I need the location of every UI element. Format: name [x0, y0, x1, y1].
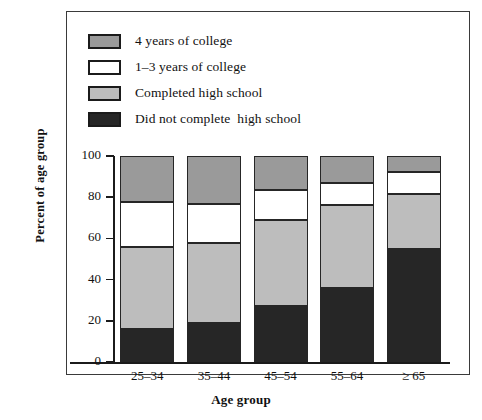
y-tick-label: 20	[88, 312, 101, 328]
bar-segment	[387, 156, 441, 172]
legend-swatch-completed-high-school	[88, 86, 121, 101]
y-tick-label: 40	[88, 271, 101, 287]
legend-label: 4 years of college	[135, 34, 232, 48]
y-tick-mark	[106, 279, 114, 281]
legend-label: Did not complete high school	[135, 112, 301, 126]
y-axis-title: Percent of age group	[33, 106, 48, 266]
legend-swatch-1-3-years-college	[88, 60, 121, 75]
legend-item: 4 years of college	[88, 28, 388, 54]
legend: 4 years of college 1–3 years of college …	[88, 28, 388, 132]
bar-segment	[187, 243, 241, 323]
bar-segment	[120, 156, 174, 202]
y-tick-mark	[106, 238, 114, 240]
bar-segment	[187, 156, 241, 204]
bar-55-64	[320, 156, 374, 362]
y-tick-mark	[106, 320, 114, 322]
bar-segment	[254, 190, 308, 220]
bar-segment	[120, 329, 174, 362]
bar-segment	[320, 288, 374, 362]
legend-label: Completed high school	[135, 86, 262, 100]
legend-label: 1–3 years of college	[135, 60, 246, 74]
bar-segment	[387, 172, 441, 194]
bar-segment	[120, 247, 174, 329]
bar-segment	[187, 204, 241, 242]
x-axis-line	[70, 362, 450, 364]
bar-segment	[254, 156, 308, 190]
bar-35-44	[187, 156, 241, 362]
y-tick-mark	[106, 155, 114, 157]
x-axis-title: Age group	[0, 392, 482, 408]
plot-area	[114, 156, 447, 362]
x-tick-label: ≥ 65	[369, 368, 459, 384]
bar-65	[387, 156, 441, 362]
bar-segment	[120, 202, 174, 246]
legend-item: Did not complete high school	[88, 106, 388, 132]
y-tick-mark	[106, 361, 114, 363]
bar-segment	[387, 249, 441, 362]
legend-swatch-4-years-college	[88, 34, 121, 49]
y-tick-label: 60	[88, 229, 101, 245]
legend-swatch-no-high-school	[88, 112, 121, 127]
y-tick-label: 0	[95, 353, 102, 369]
bar-segment	[320, 205, 374, 287]
bar-segment	[254, 306, 308, 362]
figure: 4 years of college 1–3 years of college …	[0, 0, 482, 420]
y-tick-label: 80	[88, 188, 101, 204]
bar-45-54	[254, 156, 308, 362]
legend-item: 1–3 years of college	[88, 54, 388, 80]
bar-segment	[320, 183, 374, 206]
bar-segment	[387, 194, 441, 249]
y-tick-mark	[106, 196, 114, 198]
legend-item: Completed high school	[88, 80, 388, 106]
bar-segment	[254, 220, 308, 307]
bar-segment	[320, 156, 374, 183]
bar-segment	[187, 323, 241, 362]
y-tick-label: 100	[82, 147, 102, 163]
bar-25-34	[120, 156, 174, 362]
